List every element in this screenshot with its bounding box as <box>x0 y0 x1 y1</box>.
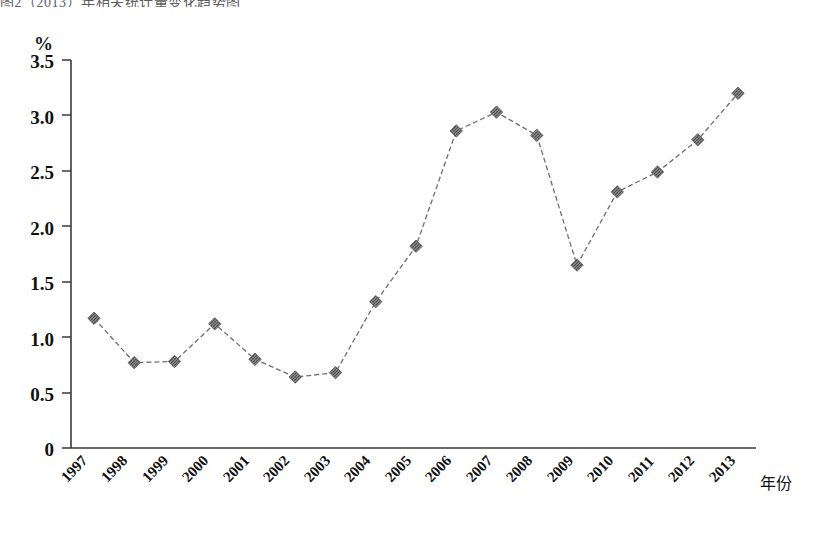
data-point-marker <box>128 356 140 368</box>
line-chart: % 3.5 3.0 2.5 2.0 1.5 1.0 0.5 0 <box>0 0 816 537</box>
y-axis-ticks <box>62 60 71 448</box>
x-axis-name-label: 年份 <box>760 470 792 494</box>
data-point-marker <box>450 125 462 137</box>
data-point-marker <box>88 312 100 324</box>
data-point-marker <box>651 166 663 178</box>
data-point-marker <box>490 106 502 118</box>
data-point-marker <box>611 186 623 198</box>
data-point-marker <box>370 295 382 307</box>
data-point-marker <box>410 240 422 252</box>
data-point-marker <box>289 371 301 383</box>
data-point-marker <box>571 259 583 271</box>
data-point-marker <box>329 366 341 378</box>
data-series <box>88 87 744 383</box>
series-line <box>94 93 738 377</box>
data-point-marker <box>531 129 543 141</box>
